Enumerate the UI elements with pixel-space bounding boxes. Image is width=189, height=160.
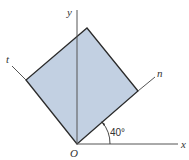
origin-label: O	[70, 147, 78, 159]
t-axis-label: t	[6, 53, 10, 65]
y-axis-label: y	[66, 6, 72, 18]
t-axis	[12, 66, 26, 80]
rotated-axes-diagram: y x n t O 40°	[0, 0, 189, 160]
n-axis	[138, 77, 155, 91]
n-axis-label: n	[157, 67, 163, 79]
angle-arc	[102, 122, 110, 144]
x-axis-label: x	[180, 138, 186, 150]
angle-label: 40°	[110, 127, 125, 138]
